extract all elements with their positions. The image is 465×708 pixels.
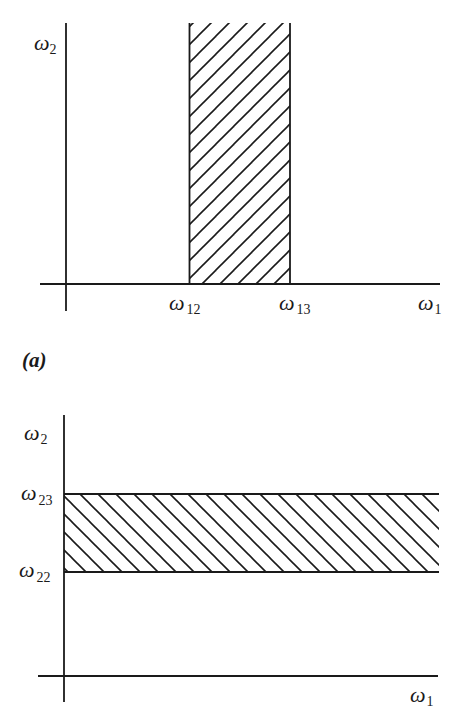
band-upper-label: ω13 (279, 290, 311, 317)
band-lower-label: ω22 (19, 557, 51, 585)
band-lower-label: ω12 (169, 290, 201, 317)
band-upper-label: ω23 (21, 480, 53, 508)
y-axis-label: ω2 (24, 420, 48, 447)
vertical-hatched-band (189, 23, 290, 284)
y-axis-label: ω2 (34, 30, 57, 57)
panel-b: ω2 ω23 ω22 ω1 (19, 415, 439, 708)
frequency-band-diagrams: ω2 ω12 ω13 ω1 (a) ω2 ω23 ω22 ω1 (0, 0, 465, 708)
horizontal-hatched-band (64, 494, 439, 572)
panel-a: ω2 ω12 ω13 ω1 (34, 23, 442, 317)
panel-a-caption: (a) (22, 348, 47, 372)
x-axis-label: ω1 (418, 290, 442, 317)
x-axis-label: ω1 (410, 682, 434, 708)
